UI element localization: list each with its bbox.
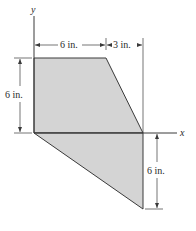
x-axis-label: x — [179, 127, 185, 138]
composite-area-diagram: y x 6 in. 3 in. 6 in. 6 in. — [0, 0, 196, 231]
dimension-label-left: 6 in. — [5, 89, 23, 100]
dimension-label-top-left: 6 in. — [60, 39, 78, 50]
dimension-label-right: 6 in. — [147, 165, 165, 176]
dimension-label-top-right: 3 in. — [113, 39, 131, 50]
lower-triangle-region — [34, 133, 143, 209]
upper-trapezoid-region — [34, 58, 143, 133]
y-axis-label: y — [30, 4, 36, 15]
